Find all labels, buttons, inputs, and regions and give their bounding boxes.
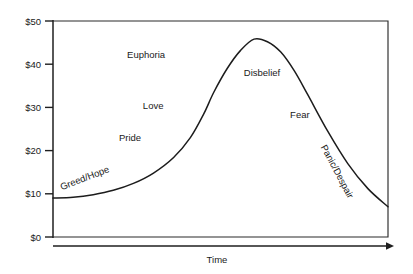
emotion-annotations: Greed/HopePrideLoveEuphoriaDisbeliefFear… — [58, 49, 356, 200]
emotion-label-pride: Pride — [119, 132, 141, 143]
y-axis-ticks — [45, 21, 53, 237]
y-tick-label-40: $40 — [25, 59, 41, 70]
emotion-label-fear: Fear — [290, 109, 310, 120]
emotion-label-love: Love — [143, 100, 164, 111]
plot-frame — [53, 21, 388, 237]
time-axis-arrow — [53, 242, 394, 250]
y-tick-label-30: $30 — [25, 102, 41, 113]
emotion-label-disbelief: Disbelief — [244, 67, 281, 78]
market-cycle-chart: $0 $10 $20 $30 $40 $50 Greed/HopePrideLo… — [0, 0, 413, 274]
y-tick-label-0: $0 — [30, 232, 41, 243]
chart-canvas: $0 $10 $20 $30 $40 $50 Greed/HopePrideLo… — [0, 0, 413, 274]
emotion-label-greed-hope: Greed/Hope — [58, 163, 110, 192]
x-axis-title: Time — [207, 254, 228, 265]
y-axis-tick-labels: $0 $10 $20 $30 $40 $50 — [25, 16, 41, 243]
y-tick-label-10: $10 — [25, 188, 41, 199]
emotion-label-euphoria: Euphoria — [127, 49, 166, 60]
y-tick-label-50: $50 — [25, 16, 41, 27]
time-arrow-head-icon — [386, 242, 394, 250]
emotion-label-panic-despair: Panic/Despair — [319, 143, 356, 200]
y-tick-label-20: $20 — [25, 145, 41, 156]
